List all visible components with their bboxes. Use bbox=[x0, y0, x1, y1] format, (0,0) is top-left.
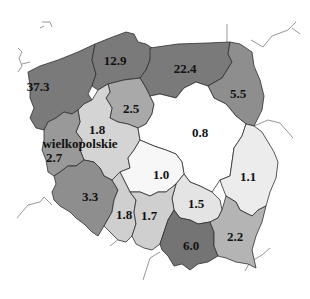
region-name-label-wielkopolskie: wielkopolskie bbox=[42, 137, 117, 150]
value-label-slaskie: 1.7 bbox=[141, 209, 157, 222]
value-label-kujawsko-pomorskie: 2.5 bbox=[123, 102, 139, 115]
value-label-lodzkie: 1.0 bbox=[153, 168, 169, 181]
value-label-podkarpackie: 2.2 bbox=[227, 230, 243, 243]
value-label-opolskie: 1.8 bbox=[116, 208, 132, 221]
neighbor-border-southwest bbox=[17, 197, 52, 218]
value-label-lubuskie: 2.7 bbox=[46, 151, 62, 164]
value-label-pomorskie: 12.9 bbox=[104, 54, 127, 67]
value-label-malopolskie: 6.0 bbox=[183, 239, 199, 252]
neighbor-border-west bbox=[18, 48, 30, 72]
neighbor-border-north bbox=[40, 22, 52, 28]
value-label-mazowieckie: 0.8 bbox=[192, 126, 208, 139]
value-label-dolnoslaskie: 3.3 bbox=[82, 190, 98, 203]
value-label-wielkopolskie: 1.8 bbox=[89, 123, 105, 136]
value-label-podlaskie: 5.5 bbox=[230, 87, 246, 100]
value-label-swietokrzyskie: 1.5 bbox=[188, 197, 204, 210]
value-label-lubelskie: 1.1 bbox=[240, 170, 256, 183]
value-label-zachodniopomorskie: 37.3 bbox=[27, 80, 50, 93]
value-label-warminsko-mazurskie: 22.4 bbox=[174, 62, 197, 75]
